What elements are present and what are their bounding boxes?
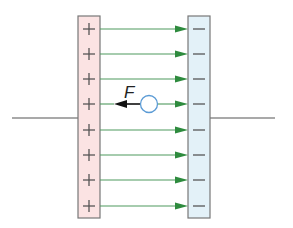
- positive-plate: [78, 16, 100, 218]
- field-arrowhead-icon: [175, 26, 188, 33]
- field-arrowhead-icon: [175, 152, 188, 159]
- field-arrowhead-icon: [175, 51, 188, 58]
- field-arrowhead-icon: [175, 101, 188, 108]
- field-line: [100, 203, 188, 210]
- field-arrowhead-icon: [175, 127, 188, 134]
- diagram-canvas: F: [0, 0, 293, 228]
- negative-plate: [188, 16, 210, 218]
- field-line: [100, 177, 188, 184]
- field-arrowhead-icon: [175, 76, 188, 83]
- test-charge: [141, 96, 158, 113]
- capacitor-diagram: F: [0, 0, 293, 228]
- field-arrowhead-icon: [175, 203, 188, 210]
- field-line: [100, 127, 188, 134]
- field-line: [100, 26, 188, 33]
- force-label: F: [124, 83, 136, 102]
- field-line: [100, 76, 188, 83]
- field-arrowhead-icon: [175, 177, 188, 184]
- field-line: [100, 51, 188, 58]
- field-line: [100, 152, 188, 159]
